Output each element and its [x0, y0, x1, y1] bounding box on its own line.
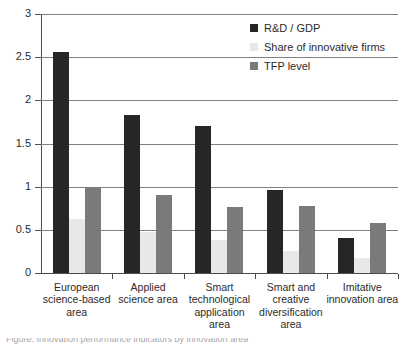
bar-chart-figure: 00.511.522.53 Europeanscience-basedareaA… [0, 0, 407, 345]
category-label-line: area [37, 306, 116, 318]
legend-label: TFP level [264, 60, 310, 72]
legend-swatch-icon [250, 43, 258, 51]
y-axis-tick-label: 0 [3, 267, 31, 278]
legend-label: R&D / GDP [264, 22, 320, 34]
legend-label: Share of innovative firms [264, 41, 385, 53]
category-label-line: area [180, 318, 259, 330]
legend-swatch-icon [250, 62, 258, 70]
y-axis-tick-label: 0.5 [3, 224, 31, 235]
figure-caption: Figure. Innovation performance indicator… [6, 338, 248, 345]
y-axis-tick-label: 3 [3, 8, 31, 19]
category-label-line: Imitative [323, 281, 402, 293]
figure-caption-strip: Figure. Innovation performance indicator… [0, 338, 407, 345]
category-label-line: technological [180, 293, 259, 305]
category-label-line: Smart [180, 281, 259, 293]
category-label-line: science-based [37, 293, 116, 305]
category-label-line: science area [108, 293, 187, 305]
legend-item[interactable]: TFP level [250, 58, 402, 74]
x-axis-category-label: Imitativeinnovation area [323, 281, 402, 306]
x-axis-category-label: Smart andcreativediversificationarea [251, 281, 330, 330]
legend-item[interactable]: R&D / GDP [250, 20, 402, 36]
category-label-line: application [180, 306, 259, 318]
category-label-line: creative [251, 293, 330, 305]
category-label-line: Smart and [251, 281, 330, 293]
x-axis-category-label: Appliedscience area [108, 281, 187, 306]
y-axis-tick-label: 1.5 [3, 138, 31, 149]
y-axis-tick-label: 2.5 [3, 51, 31, 62]
x-axis-category-labels: Europeanscience-basedareaAppliedscience … [41, 281, 398, 339]
y-axis-tick-label: 2 [3, 94, 31, 105]
legend-item[interactable]: Share of innovative firms [250, 39, 402, 55]
category-label-line: area [251, 318, 330, 330]
category-label-line: innovation area [323, 293, 402, 305]
legend-swatch-icon [250, 24, 258, 32]
x-axis-category-label: Europeanscience-basedarea [37, 281, 116, 318]
category-label-line: diversification [251, 306, 330, 318]
x-axis-category-label: Smarttechnologicalapplicationarea [180, 281, 259, 330]
chart-legend: R&D / GDPShare of innovative firmsTFP le… [250, 20, 402, 77]
y-axis-tick-label: 1 [3, 181, 31, 192]
category-label-line: European [37, 281, 116, 293]
category-label-line: Applied [108, 281, 187, 293]
